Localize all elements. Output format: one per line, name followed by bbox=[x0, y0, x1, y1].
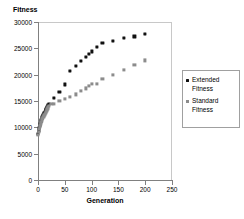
x-tick-label: 150 bbox=[113, 186, 124, 193]
y-tick-label: 15000 bbox=[0, 98, 32, 105]
data-point bbox=[111, 39, 114, 42]
data-point bbox=[85, 56, 88, 59]
data-point bbox=[122, 36, 125, 39]
data-point bbox=[36, 133, 39, 136]
data-point bbox=[133, 35, 136, 38]
y-tick-label: 20000 bbox=[0, 71, 32, 78]
legend-label: Extended Fitness bbox=[192, 76, 219, 93]
fitness-scatter-chart: Fitness 05000100001500020000250003000005… bbox=[0, 0, 244, 219]
data-point bbox=[122, 68, 125, 71]
data-point bbox=[52, 102, 55, 105]
data-point bbox=[101, 77, 104, 80]
y-tick bbox=[34, 75, 38, 76]
y-tick bbox=[34, 101, 38, 102]
data-point bbox=[79, 59, 82, 62]
data-point bbox=[58, 99, 61, 102]
x-tick-label: 50 bbox=[61, 186, 68, 193]
diamond-marker-icon bbox=[186, 79, 189, 82]
square-marker-icon bbox=[186, 100, 189, 103]
x-tick-label: 200 bbox=[140, 186, 151, 193]
x-tick bbox=[92, 181, 93, 185]
data-point bbox=[95, 82, 98, 85]
data-point bbox=[63, 97, 66, 100]
x-tick-label: 100 bbox=[86, 186, 97, 193]
data-point bbox=[90, 82, 93, 85]
y-tick-label: 0 bbox=[0, 177, 32, 184]
legend-item-standard-fitness: Standard Fitness bbox=[186, 97, 236, 114]
x-tick bbox=[38, 181, 39, 185]
data-point bbox=[144, 59, 147, 62]
y-axis-title: Fitness bbox=[13, 6, 38, 13]
y-tick-label: 25000 bbox=[0, 45, 32, 52]
chart-legend: Extended Fitness Standard Fitness bbox=[182, 70, 240, 128]
data-point bbox=[95, 46, 98, 49]
y-axis-line bbox=[38, 22, 39, 181]
x-tick bbox=[118, 181, 119, 185]
y-tick-label: 30000 bbox=[0, 19, 32, 26]
data-point bbox=[144, 33, 147, 36]
data-point bbox=[74, 64, 77, 67]
data-point bbox=[111, 73, 114, 76]
x-tick-label: 0 bbox=[36, 186, 40, 193]
data-point bbox=[63, 83, 66, 86]
data-point bbox=[90, 50, 93, 53]
legend-item-extended-fitness: Extended Fitness bbox=[186, 76, 236, 93]
x-tick bbox=[172, 181, 173, 185]
y-tick-label: 5000 bbox=[0, 150, 32, 157]
x-tick bbox=[145, 181, 146, 185]
x-axis-line bbox=[38, 180, 173, 181]
x-axis-title: Generation bbox=[38, 197, 172, 204]
legend-label: Standard Fitness bbox=[192, 97, 218, 114]
data-point bbox=[79, 89, 82, 92]
data-point bbox=[101, 41, 104, 44]
y-tick bbox=[34, 22, 38, 23]
data-point bbox=[58, 91, 61, 94]
data-point bbox=[69, 95, 72, 98]
x-tick-label: 250 bbox=[167, 186, 178, 193]
x-tick bbox=[65, 181, 66, 185]
y-tick-label: 10000 bbox=[0, 124, 32, 131]
data-point bbox=[74, 93, 77, 96]
y-tick bbox=[34, 48, 38, 49]
y-tick bbox=[34, 154, 38, 155]
data-point bbox=[69, 69, 72, 72]
data-point bbox=[52, 96, 55, 99]
data-point bbox=[133, 64, 136, 67]
